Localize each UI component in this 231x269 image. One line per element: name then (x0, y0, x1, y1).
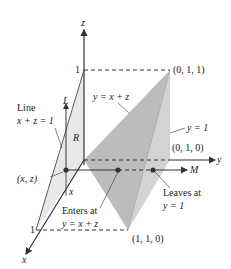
point-label-110: (1, 1, 0) (132, 233, 164, 245)
point-leaves (150, 167, 155, 172)
diagram-canvas: z y x 1 1 (0, 1, 1) (0, 1, 0) (1, 1, 0) … (0, 0, 231, 269)
point-xz (63, 167, 68, 172)
point-label-010: (0, 1, 0) (172, 142, 204, 154)
M-label: M (189, 164, 199, 175)
leader-y1 (170, 128, 185, 133)
y-axis-label: y (216, 154, 222, 165)
x-small-label: x (68, 186, 74, 197)
z-tick-1: 1 (75, 64, 80, 75)
leaves-label-1: Leaves at (163, 187, 201, 198)
point-enters (115, 167, 120, 172)
enters-label-2: y = x + z (61, 218, 98, 229)
line-equation: x + z = 1 (16, 115, 54, 126)
L-label: L (62, 95, 69, 106)
plane-label-yxz: y = x + z (92, 91, 129, 102)
leaves-label-2: y = 1 (162, 200, 184, 211)
x-axis-label: x (21, 254, 27, 265)
line-title: Line (17, 102, 36, 113)
enters-label-1: Enters at (62, 205, 97, 216)
plane-label-y1: y = 1 (186, 122, 208, 133)
z-axis-label: z (80, 17, 85, 28)
x-tick-1: 1 (30, 224, 35, 235)
leader-line-eq (55, 128, 62, 148)
point-label-011: (0, 1, 1) (173, 64, 205, 76)
leader-plane-yxz (118, 103, 129, 113)
R-label: R (72, 132, 79, 143)
point-label-xz: (x, z) (17, 173, 38, 185)
